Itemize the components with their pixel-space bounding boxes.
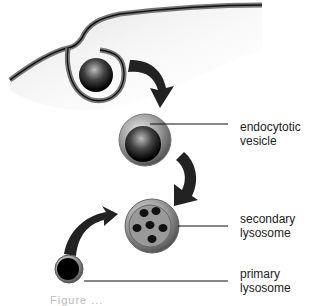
label-line-2: lysosome <box>240 281 291 295</box>
arrow-2 <box>174 152 198 206</box>
label-line-2: vesicle <box>240 134 301 148</box>
figure-caption: Figure ... <box>50 294 103 306</box>
label-secondary-lysosome: secondary lysosome <box>240 212 295 240</box>
label-line-1: primary <box>240 267 291 281</box>
label-line-1: secondary <box>240 212 295 226</box>
invaginating-particle <box>79 58 113 92</box>
label-line-2: lysosome <box>240 226 295 240</box>
label-line-1: endocytotic <box>240 120 301 134</box>
label-primary-lysosome: primary lysosome <box>240 267 291 295</box>
arrow-3 <box>64 206 118 256</box>
label-endocytotic-vesicle: endocytotic vesicle <box>240 120 301 148</box>
